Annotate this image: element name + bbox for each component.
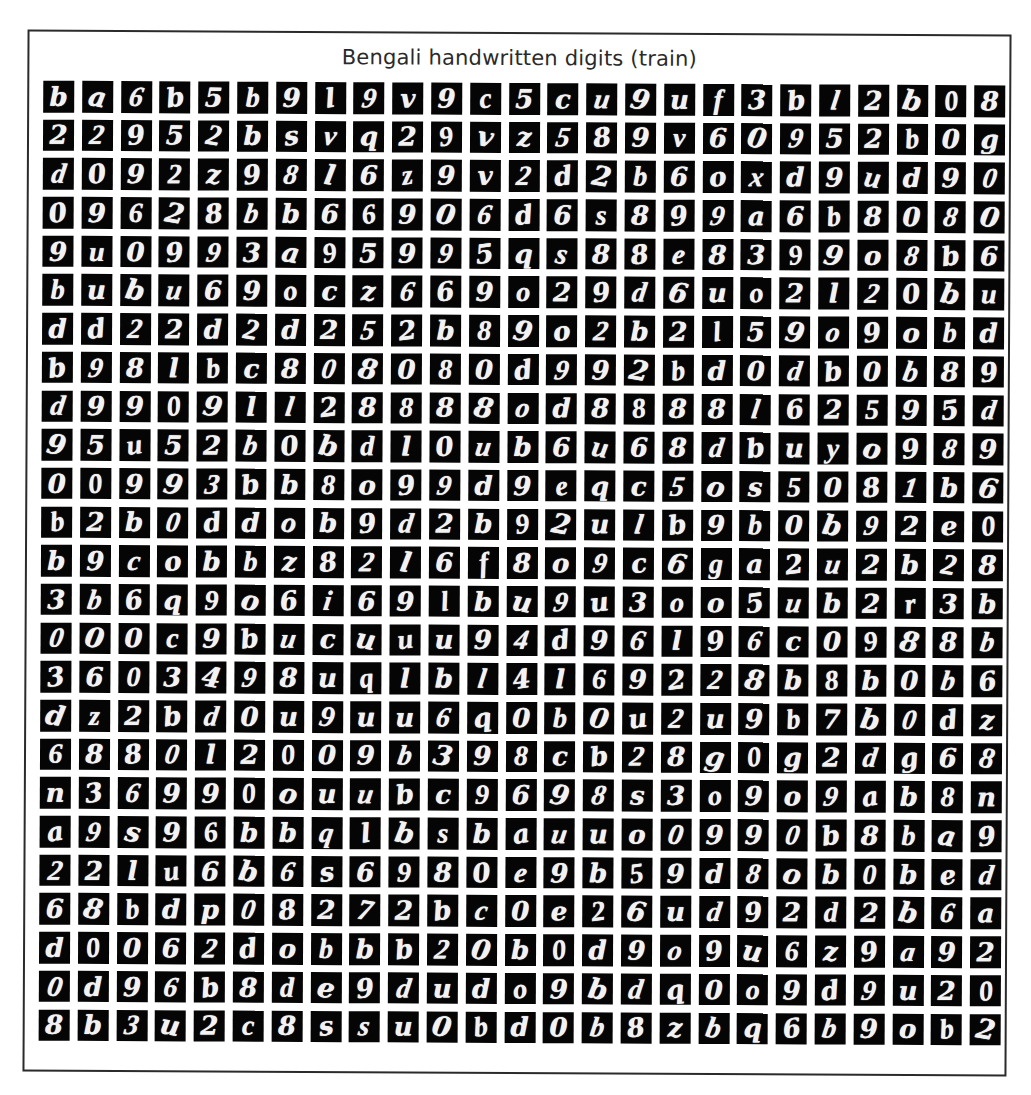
digit-image-tile: 9 bbox=[660, 857, 691, 889]
digit-image-tile: 8 bbox=[934, 356, 965, 388]
digit-image-tile: l bbox=[195, 739, 226, 771]
digit-image-tile: b bbox=[119, 507, 150, 539]
digit-image-tile: 0 bbox=[117, 932, 148, 964]
digit-image-tile: 9 bbox=[507, 470, 538, 502]
handwritten-digit-glyph: v bbox=[477, 163, 492, 189]
digit-image-tile: d bbox=[779, 355, 810, 387]
digit-image-tile: s bbox=[740, 471, 771, 503]
handwritten-digit-glyph: o bbox=[239, 585, 262, 615]
digit-image-tile: 6 bbox=[155, 971, 186, 1003]
digit-image-tile: d bbox=[855, 742, 886, 774]
handwritten-digit-glyph: a bbox=[860, 783, 880, 811]
handwritten-digit-glyph: c bbox=[321, 278, 337, 304]
digit-image-tile: 2 bbox=[585, 315, 616, 347]
digit-image-tile: 5 bbox=[158, 429, 189, 461]
handwritten-digit-glyph: b bbox=[282, 201, 300, 227]
handwritten-digit-glyph: 9 bbox=[742, 898, 763, 926]
handwritten-digit-glyph: d bbox=[861, 744, 879, 772]
digit-image-tile: 9 bbox=[431, 83, 462, 115]
handwritten-digit-glyph: d bbox=[474, 472, 492, 498]
handwritten-digit-glyph: v bbox=[400, 85, 415, 111]
digit-image-tile: 7 bbox=[816, 703, 847, 735]
digit-image-tile: g bbox=[974, 124, 1005, 156]
digit-image-tile: 2 bbox=[427, 934, 458, 966]
digit-image-tile: u bbox=[584, 586, 615, 618]
handwritten-digit-glyph: f bbox=[477, 548, 490, 577]
handwritten-digit-glyph: 9 bbox=[550, 860, 568, 886]
digit-image-tile: b bbox=[42, 351, 73, 383]
handwritten-digit-glyph: s bbox=[317, 1012, 335, 1040]
digit-image-tile: l bbox=[391, 431, 422, 463]
digit-image-tile: 9 bbox=[507, 509, 538, 541]
digit-image-tile: d bbox=[81, 313, 112, 345]
handwritten-digit-glyph: 0 bbox=[900, 706, 918, 734]
digit-image-tile: y bbox=[817, 433, 848, 465]
digit-image-tile: 8 bbox=[313, 469, 344, 501]
digit-image-tile: 0 bbox=[466, 934, 497, 966]
digit-image-tile: q bbox=[737, 1013, 768, 1045]
handwritten-digit-glyph: 9 bbox=[164, 238, 185, 266]
handwritten-digit-glyph: s bbox=[357, 1012, 372, 1040]
digit-image-tile: 2 bbox=[118, 700, 149, 732]
digit-image-tile: b bbox=[740, 432, 771, 464]
handwritten-digit-glyph: b bbox=[473, 821, 491, 847]
digit-image-tile: 9 bbox=[895, 433, 926, 465]
digit-image-tile: u bbox=[737, 935, 768, 967]
handwritten-digit-glyph: 0 bbox=[164, 509, 182, 537]
handwritten-digit-glyph: l bbox=[401, 433, 411, 459]
digit-image-tile: d bbox=[973, 395, 1004, 427]
handwritten-digit-glyph: l bbox=[633, 511, 645, 539]
digit-image-tile: u bbox=[273, 701, 304, 733]
digit-image-tile: b bbox=[197, 352, 228, 384]
digit-image-tile: o bbox=[157, 545, 188, 577]
handwritten-digit-glyph: 0 bbox=[83, 623, 107, 653]
digit-image-tile: 9 bbox=[392, 237, 423, 269]
digit-image-tile: 0 bbox=[469, 354, 500, 386]
handwritten-digit-glyph: 0 bbox=[823, 629, 841, 655]
digit-image-tile: 0 bbox=[234, 778, 265, 810]
handwritten-digit-glyph: 2 bbox=[433, 935, 451, 963]
digit-image-tile: b bbox=[931, 1014, 962, 1046]
handwritten-digit-glyph: 9 bbox=[860, 976, 878, 1004]
digit-image-tile: 9 bbox=[931, 936, 962, 968]
handwritten-digit-glyph: 9 bbox=[860, 1016, 878, 1042]
digit-image-tile: 9 bbox=[196, 584, 227, 616]
handwritten-digit-glyph: l bbox=[359, 820, 372, 847]
handwritten-digit-glyph: 4 bbox=[199, 662, 223, 692]
handwritten-digit-glyph: 9 bbox=[475, 279, 493, 305]
handwritten-digit-glyph: b bbox=[704, 1012, 724, 1044]
handwritten-digit-glyph: 2 bbox=[549, 509, 573, 539]
digit-image-tile: 0 bbox=[41, 468, 72, 500]
digit-image-tile: 2 bbox=[586, 161, 617, 193]
digit-image-tile: 9 bbox=[779, 316, 810, 348]
digit-image-tile: b bbox=[507, 431, 538, 463]
digit-image-tile: 0 bbox=[854, 858, 885, 890]
digit-image-tile: b bbox=[160, 81, 191, 113]
handwritten-digit-glyph: 3 bbox=[667, 783, 685, 809]
handwritten-digit-glyph: 2 bbox=[628, 743, 646, 771]
digit-image-tile: b bbox=[934, 317, 965, 349]
handwritten-digit-glyph: 9 bbox=[204, 586, 218, 614]
handwritten-digit-glyph: 2 bbox=[974, 1014, 998, 1044]
handwritten-digit-glyph: b bbox=[47, 353, 69, 381]
digit-image-tile: b bbox=[817, 587, 848, 619]
handwritten-digit-glyph: u bbox=[590, 512, 609, 538]
digit-image-tile: 9 bbox=[119, 468, 150, 500]
digit-image-tile: b bbox=[349, 933, 380, 965]
handwritten-digit-glyph: 9 bbox=[552, 588, 570, 616]
handwritten-digit-glyph: 2 bbox=[628, 355, 652, 385]
handwritten-digit-glyph: 3 bbox=[747, 242, 765, 268]
handwritten-digit-glyph: a bbox=[45, 818, 65, 846]
handwritten-digit-glyph: 9 bbox=[627, 937, 645, 963]
handwritten-digit-glyph: u bbox=[395, 704, 414, 730]
digit-image-tile: 0 bbox=[39, 970, 70, 1002]
digit-image-tile: o bbox=[701, 471, 732, 503]
handwritten-digit-glyph: 3 bbox=[243, 239, 261, 265]
handwritten-digit-glyph: s bbox=[438, 819, 449, 847]
handwritten-digit-glyph: c bbox=[242, 1012, 255, 1040]
digit-image-tile: 9 bbox=[119, 391, 150, 423]
digit-image-tile: o bbox=[699, 780, 730, 812]
handwritten-digit-glyph: b bbox=[202, 548, 220, 574]
digit-image-tile: v bbox=[315, 121, 346, 153]
handwritten-digit-glyph: 8 bbox=[45, 1012, 63, 1038]
